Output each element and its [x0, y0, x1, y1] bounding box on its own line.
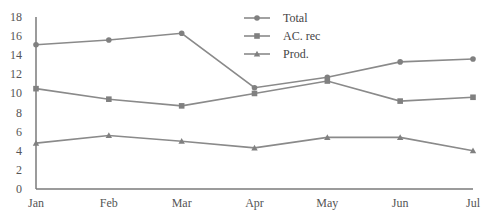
data-point-total: [252, 85, 258, 91]
x-tick-label: Jun: [392, 196, 409, 210]
legend-label: Total: [283, 11, 308, 25]
legend-label: AC. rec: [283, 29, 320, 43]
legend-marker-icon: [254, 15, 260, 21]
data-point-total: [179, 30, 185, 36]
data-point-ac-rec: [252, 91, 258, 97]
x-tick-label: May: [316, 196, 338, 210]
data-point-ac-rec: [33, 86, 39, 92]
line-chart: 024681012141618 JanFebMarAprMayJunJul To…: [0, 0, 495, 221]
x-tick-label: Feb: [100, 196, 118, 210]
series-layer: [33, 30, 476, 153]
y-tick-label: 18: [10, 10, 22, 24]
y-tick-label: 16: [10, 29, 22, 43]
data-point-ac-rec: [470, 94, 476, 100]
data-point-total: [33, 42, 39, 48]
y-tick-label: 10: [10, 86, 22, 100]
data-point-ac-rec: [397, 98, 403, 104]
legend-item-prod: Prod.: [244, 47, 309, 61]
y-tick-label: 12: [10, 67, 22, 81]
legend: TotalAC. recProd.: [244, 11, 320, 61]
legend-item-total: Total: [244, 11, 308, 25]
data-point-total: [397, 59, 403, 65]
legend-label: Prod.: [283, 47, 309, 61]
y-axis-ticks: 024681012141618: [10, 10, 22, 196]
x-tick-label: Apr: [245, 196, 264, 210]
x-tick-label: Mar: [172, 196, 192, 210]
data-point-ac-rec: [106, 96, 112, 102]
series-total: [33, 30, 476, 90]
y-tick-label: 4: [16, 144, 22, 158]
legend-item-ac-rec: AC. rec: [244, 29, 320, 43]
y-tick-label: 8: [16, 106, 22, 120]
x-tick-label: Jul: [466, 196, 481, 210]
series-prod: [33, 132, 476, 153]
data-point-ac-rec: [325, 78, 331, 84]
x-tick-label: Jan: [28, 196, 44, 210]
data-point-total: [470, 56, 476, 62]
y-tick-label: 6: [16, 125, 22, 139]
y-tick-label: 0: [16, 182, 22, 196]
series-line-total: [36, 33, 473, 87]
x-axis-ticks: JanFebMarAprMayJunJul: [28, 196, 481, 210]
legend-marker-icon: [254, 33, 260, 39]
data-point-ac-rec: [179, 103, 185, 109]
series-ac-rec: [33, 78, 476, 108]
data-point-total: [106, 37, 112, 43]
y-tick-label: 2: [16, 163, 22, 177]
y-tick-label: 14: [10, 48, 22, 62]
